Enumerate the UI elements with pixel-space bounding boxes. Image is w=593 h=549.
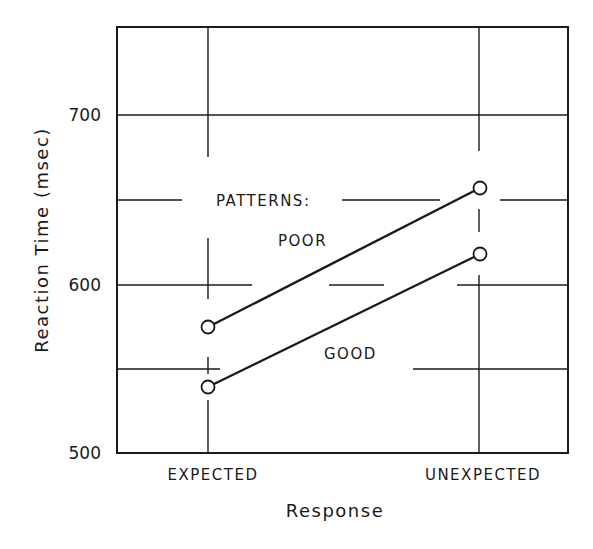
x-category-expected: EXPECTED <box>168 466 259 484</box>
x-category-unexpected: UNEXPECTED <box>425 466 541 484</box>
plot-frame <box>117 27 568 453</box>
gridlines <box>117 27 568 453</box>
data-point-good-unexpected <box>474 248 487 261</box>
series-label-poor: POOR <box>278 232 327 250</box>
reaction-time-chart: PATTERNS: POOR GOOD 700 600 500 Reaction… <box>0 0 593 549</box>
data-point-good-expected <box>202 381 215 394</box>
x-axis-title: Response <box>286 500 384 521</box>
data-point-poor-unexpected <box>474 182 487 195</box>
series-label-good: GOOD <box>324 345 377 363</box>
y-tick-500: 500 <box>69 443 101 463</box>
y-tick-700: 700 <box>69 105 101 125</box>
data-point-poor-expected <box>202 321 215 334</box>
y-axis-title: Reaction Time (msec) <box>31 127 52 353</box>
legend-title: PATTERNS: <box>216 192 310 210</box>
series-good <box>202 248 487 394</box>
y-tick-600: 600 <box>69 275 101 295</box>
